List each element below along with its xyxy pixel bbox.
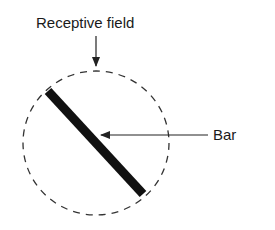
diagram-canvas xyxy=(0,0,275,230)
receptive-field-label: Receptive field xyxy=(36,14,134,31)
bar-label: Bar xyxy=(213,126,236,143)
bar-stimulus xyxy=(48,91,143,194)
